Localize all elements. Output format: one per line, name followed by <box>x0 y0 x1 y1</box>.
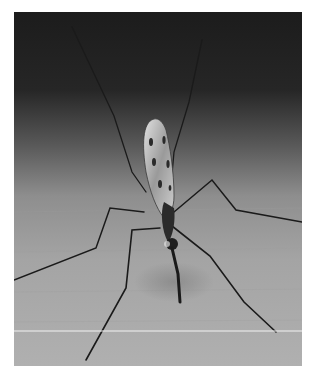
insect-shadow <box>134 262 214 302</box>
mosquito-photo <box>14 12 302 366</box>
eye-highlight <box>164 241 170 247</box>
photo-canvas <box>14 12 302 366</box>
